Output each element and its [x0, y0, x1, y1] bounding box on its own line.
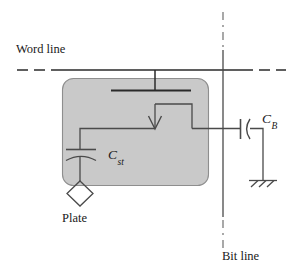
figure-canvas: Word line Bit line Plate Cst CB: [0, 0, 300, 275]
bitline-capacitor-label: CB: [262, 112, 277, 129]
bit-line-label: Bit line: [222, 250, 259, 263]
storage-capacitor-subscript: st: [118, 157, 124, 167]
storage-capacitor-label: Cst: [108, 148, 123, 165]
bitline-capacitor-right-plate: [247, 119, 250, 139]
memory-cell-region: [63, 79, 209, 186]
bitline-capacitor-subscript: B: [272, 121, 278, 131]
word-line-label: Word line: [16, 43, 65, 56]
storage-capacitor-symbol: C: [108, 147, 117, 162]
ground-icon: [249, 181, 277, 188]
bitline-capacitor-ground-lead: [250, 129, 263, 181]
bitline-capacitor-symbol: C: [262, 111, 271, 126]
plate-label: Plate: [62, 212, 87, 225]
